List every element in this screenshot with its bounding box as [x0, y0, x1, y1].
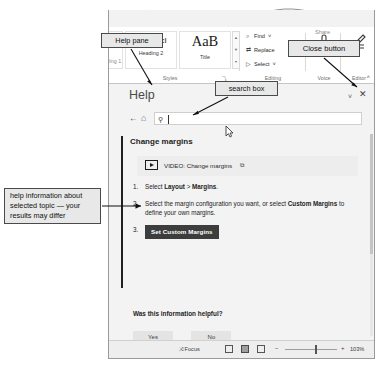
search-input[interactable]: ⚲	[154, 112, 362, 125]
style-tile-title-label: Title	[180, 54, 230, 60]
style-tile-title-sample: AaB	[180, 34, 230, 49]
text-caret	[168, 115, 169, 124]
style-tile-partial-label: Heading 1	[108, 58, 122, 64]
zoom-in-button[interactable]: +	[341, 345, 345, 351]
search-icon: ⌕	[246, 32, 254, 40]
zoom-slider-thumb[interactable]	[315, 345, 317, 354]
ribbon-separator	[239, 33, 240, 71]
annotation-help-information: help information about selected topic — …	[4, 188, 101, 224]
play-video-icon	[145, 160, 158, 170]
article-accent-rule	[121, 136, 123, 288]
focus-mode-button[interactable]: ⤨ Focus	[179, 346, 200, 353]
web-layout-icon[interactable]	[257, 345, 265, 353]
annotation-close-button: Close button	[288, 40, 360, 57]
mouse-cursor	[225, 125, 234, 138]
annotation-search-box: search box	[215, 81, 278, 96]
focus-label: Focus	[185, 346, 200, 352]
style-tile-title[interactable]: AaB Title	[179, 31, 231, 69]
search-icon: ⚲	[158, 116, 163, 124]
focus-icon: ⤨	[179, 346, 183, 352]
collapse-ribbon-icon[interactable]: ˄	[366, 74, 370, 80]
feedback-question: Was this information helpful?	[133, 310, 358, 317]
replace-icon: ⇄	[246, 46, 254, 53]
find-caret-icon[interactable]: ˅	[268, 33, 271, 39]
scrollbar-thumb[interactable]	[370, 134, 373, 254]
help-article: Change margins VIDEO: Change margins ⧉ 1…	[121, 134, 362, 336]
step-text: Select the margin configuration you want…	[145, 200, 344, 217]
status-bar: ⤨ Focus − + 103%	[109, 340, 374, 358]
print-layout-icon[interactable]	[241, 345, 249, 353]
article-video-label: VIDEO: Change margins	[164, 162, 232, 169]
select-button[interactable]: ▷Select˅	[246, 60, 276, 67]
replace-button[interactable]: ⇄Replace	[246, 46, 275, 53]
find-button[interactable]: ⌕Find˅	[246, 32, 271, 40]
step-text: Select Layout > Margins.	[145, 183, 218, 190]
ribbon-group-editor-label: Editor	[342, 75, 375, 81]
find-label: Find	[254, 33, 265, 39]
step-number: 3.	[133, 225, 138, 235]
chevron-down-icon[interactable]: ˅	[348, 93, 352, 100]
close-icon[interactable]: ✕	[359, 90, 367, 99]
select-label: Select	[254, 61, 270, 67]
ribbon-group-styles-label: Styles	[111, 75, 229, 81]
set-custom-margins-button[interactable]: Set Custom Margins	[145, 225, 219, 240]
step-number: 2.	[133, 199, 138, 209]
help-pane: Help ˅ ✕ ← ⌂ ⚲ Change margins VIDEO: Cha	[109, 84, 374, 340]
article-title: Change margins	[130, 137, 193, 146]
article-step: 3. Set Custom Margins	[145, 225, 358, 240]
home-icon[interactable]: ⌂	[141, 113, 146, 123]
zoom-out-button[interactable]: −	[275, 345, 279, 351]
help-pane-nav-row: ← ⌂ ⚲	[109, 110, 374, 130]
word-window: Share Heading 1 AaBbCcI Heading 2 AaB Ti…	[108, 10, 375, 359]
article-video-link[interactable]: VIDEO: Change margins ⧉	[137, 156, 358, 176]
annotation-help-pane: Help pane	[101, 33, 163, 48]
style-tile-heading2-label: Heading 2	[126, 50, 176, 56]
select-icon: ▷	[246, 60, 254, 67]
screenshot-root: Share Heading 1 AaBbCcI Heading 2 AaB Ti…	[0, 0, 381, 369]
styles-dialog-launcher-icon[interactable]: ⤵	[222, 74, 227, 81]
article-step: 2. Select the margin configuration you w…	[145, 199, 358, 218]
ribbon-group-voice-label: Voice	[307, 75, 341, 81]
help-pane-scrollbar[interactable]	[370, 134, 373, 336]
article-steps: 1. Select Layout > Margins. 2. Select th…	[133, 182, 358, 246]
zoom-slider-track[interactable]	[285, 349, 337, 350]
step-number: 1.	[133, 182, 138, 192]
help-pane-title: Help	[129, 88, 155, 102]
read-mode-icon[interactable]	[225, 345, 233, 353]
select-caret-icon[interactable]: ˅	[273, 61, 276, 67]
replace-label: Replace	[254, 47, 275, 53]
zoom-level-label[interactable]: 103%	[350, 346, 364, 352]
article-step: 1. Select Layout > Margins.	[145, 182, 358, 192]
back-arrow-icon[interactable]: ←	[129, 113, 138, 123]
external-link-icon: ⧉	[240, 162, 244, 169]
